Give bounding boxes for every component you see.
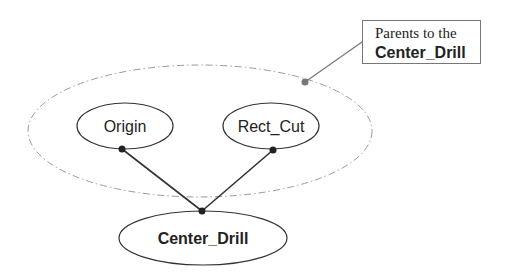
callout-text-line2: Center_Drill	[375, 43, 480, 62]
center-drill-connector-dot	[199, 208, 206, 215]
node-rect-cut-label: Rect_Cut	[238, 118, 305, 136]
callout-text-line1: Parents to the	[375, 24, 480, 43]
node-center-drill-label: Center_Drill	[158, 230, 249, 247]
node-origin-label: Origin	[104, 118, 147, 135]
edge-origin-to-center-drill	[122, 149, 202, 211]
callout-leader-line	[305, 42, 362, 82]
callout-anchor-dot	[302, 79, 309, 86]
node-center-drill[interactable]: Center_Drill	[119, 211, 287, 265]
rect-cut-connector-dot	[270, 147, 277, 154]
origin-connector-dot	[119, 146, 126, 153]
parents-callout-box: Parents to the Center_Drill	[362, 20, 481, 64]
node-origin[interactable]: Origin	[77, 103, 173, 149]
node-rect-cut[interactable]: Rect_Cut	[223, 103, 319, 149]
edge-rect-cut-to-center-drill	[202, 150, 273, 211]
